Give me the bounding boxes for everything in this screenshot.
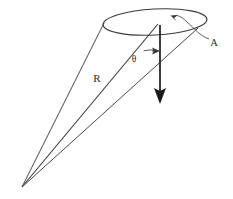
area-leader-curve <box>173 15 210 39</box>
area-leader-arrowhead <box>171 15 178 21</box>
label-radius: R <box>93 72 101 84</box>
figure-canvas: R θ A <box>0 0 233 199</box>
label-area: A <box>210 37 218 48</box>
axis-arrow-group <box>154 25 166 104</box>
label-angle: θ <box>132 54 137 64</box>
cone-solid-angle-diagram: R θ A <box>0 0 233 199</box>
cone-slant-lines <box>22 23 198 187</box>
angle-arc-group <box>144 48 160 55</box>
slant-line-center <box>22 24 158 187</box>
slant-line-right <box>22 28 198 187</box>
slant-line-left <box>22 23 104 187</box>
